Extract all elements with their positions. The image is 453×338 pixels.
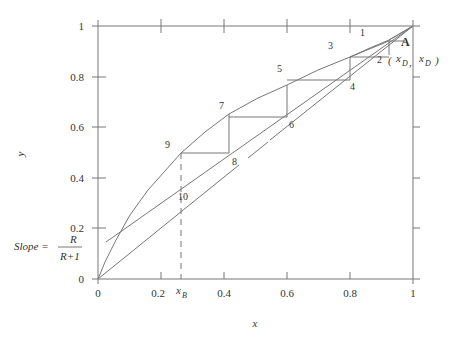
point-a-label: A: [401, 35, 410, 49]
svg-text:x: x: [175, 284, 181, 296]
y-tick-0.8: 0.8: [70, 71, 84, 83]
svg-text:x: x: [418, 52, 424, 64]
svg-text:D: D: [424, 59, 431, 68]
stage-label-5: 5: [277, 63, 282, 74]
slope-label: Slope =: [14, 240, 49, 252]
xb-label: x B: [175, 284, 187, 300]
stage-label-3: 3: [328, 40, 333, 51]
x-tick-0.8: 0.8: [343, 287, 357, 299]
stage-label-10: 10: [178, 191, 188, 202]
y-tick-labels: 0 0.2 0.4 0.6 0.8 1: [70, 20, 84, 285]
operating-line: [106, 26, 413, 242]
stage-label-6: 6: [289, 119, 294, 130]
x-tick-0.6: 0.6: [280, 287, 294, 299]
svg-text:B: B: [182, 291, 187, 300]
stage-labels: 1 2 3 4 5 6 7 8 9 10: [165, 27, 382, 202]
mccabe-thiele-diagram: 0 0.2 0.4 0.6 0.8 1 0 0.2 0.4 0.6 0.8 1 …: [0, 0, 453, 338]
y-tick-1: 1: [79, 20, 85, 32]
stage-label-2: 2: [377, 54, 382, 65]
y-tick-0.4: 0.4: [70, 172, 84, 184]
stage-label-8: 8: [232, 156, 237, 167]
y-tick-0: 0: [79, 273, 85, 285]
x-tick-0.2: 0.2: [151, 287, 165, 299]
x-tick-0: 0: [95, 287, 101, 299]
x-tick-0.4: 0.4: [217, 287, 231, 299]
x-axis-title: x: [252, 317, 258, 329]
stage-label-1: 1: [360, 27, 365, 38]
svg-text:D: D: [401, 59, 408, 68]
y-axis-title: y: [14, 151, 26, 157]
x-tick-labels: 0 0.2 0.4 0.6 0.8 1: [95, 287, 416, 299]
diagonal-line: [98, 26, 413, 279]
stage-steps: [181, 26, 413, 153]
y-tick-0.6: 0.6: [70, 121, 84, 133]
slope-annotation: Slope = R R+1: [14, 233, 82, 262]
stage-label-7: 7: [219, 100, 224, 111]
slope-denominator: R+1: [59, 250, 80, 262]
svg-text:): ): [434, 54, 439, 67]
x-ticks: [161, 19, 350, 279]
svg-text:,: ,: [409, 56, 412, 68]
svg-text:x: x: [395, 52, 401, 64]
svg-text:(: (: [388, 54, 393, 67]
stage-label-9: 9: [165, 139, 170, 150]
x-tick-1: 1: [410, 287, 416, 299]
stage-label-4: 4: [350, 81, 355, 92]
slope-numerator: R: [69, 233, 77, 245]
